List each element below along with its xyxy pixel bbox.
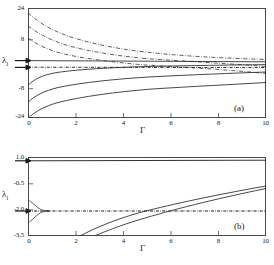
panel-a-curve-upper-1 — [28, 13, 266, 60]
panel-b-xtick-5: 10 — [257, 238, 274, 245]
panel-b-xtickmarks — [29, 231, 266, 236]
panel-a-xtick-0: 0 — [20, 120, 38, 127]
panel-b-tag: (b) — [234, 222, 245, 231]
panel-a-tag: (a) — [234, 104, 244, 113]
panel-a-line-flat-upper — [28, 61, 266, 62]
panel-a-xtick-2: 4 — [115, 120, 133, 127]
panel-a-curve-upper-3 — [28, 38, 266, 74]
panel-b-arrow-mid — [15, 209, 31, 214]
panel-b-bifurcation-lower — [30, 211, 51, 222]
panel-a-ytickmarks — [28, 9, 33, 118]
panel-a-xtickmarks — [29, 113, 266, 118]
panel-a-x-axis-title: Γ — [140, 126, 145, 135]
panel-a-xtick-5: 10 — [257, 120, 274, 127]
panel-b-curves — [0, 140, 273, 265]
panel-a-curve-lower-3 — [28, 83, 266, 119]
panel-b-ytickmarks — [28, 158, 33, 236]
panel-b-x-axis-title: Γ — [140, 244, 145, 253]
figure-root: 24 8 -8 -24 λi — [0, 0, 273, 265]
panel-a-curve-lower-2 — [28, 72, 266, 103]
panel-b-arrow-top — [15, 159, 31, 164]
panel-a-xtick-3: 6 — [162, 120, 180, 127]
panel-b-line-top — [28, 160, 266, 161]
panel-a-xtick-4: 8 — [210, 120, 228, 127]
panel-b-xtick-1: 2 — [67, 238, 85, 245]
panel-b-arrow-markers — [15, 159, 31, 214]
panel-a-xtick-1: 2 — [67, 120, 85, 127]
panel-a-arrow-markers — [15, 58, 31, 69]
panel-a: 24 8 -8 -24 λi — [0, 0, 273, 133]
panel-a-curves — [0, 0, 273, 133]
panel-b-xtick-0: 0 — [20, 238, 38, 245]
panel-b-xtick-2: 4 — [115, 238, 133, 245]
panel-a-arrow-lower — [15, 65, 31, 70]
panel-a-arrow-upper — [15, 58, 31, 63]
panel-b: 1.0 -0.5 -2.0 -3.5 λi — [0, 140, 273, 265]
panel-b-xtick-4: 8 — [210, 238, 228, 245]
panel-b-xtick-3: 6 — [162, 238, 180, 245]
